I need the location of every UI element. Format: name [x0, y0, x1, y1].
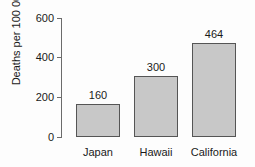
bar-california[interactable] — [192, 43, 236, 137]
y-tick-mark-0 — [57, 137, 61, 138]
y-tick-label-400: 400 — [14, 52, 54, 63]
plot-area: 160 Japan 300 Hawaii 464 California — [62, 0, 255, 167]
bar-hawaii[interactable] — [134, 76, 178, 137]
bar-japan[interactable] — [76, 104, 120, 137]
y-tick-label-200: 200 — [14, 92, 54, 103]
bar-value-california: 464 — [180, 29, 248, 40]
y-tick-label-600: 600 — [14, 13, 54, 24]
y-tick-label-0: 0 — [14, 132, 54, 143]
y-tick-mark-200 — [57, 97, 61, 98]
bar-chart-figure: Deaths per 100 000 600 400 200 0 160 Jap… — [0, 0, 255, 167]
bar-value-hawaii: 300 — [122, 62, 190, 73]
bar-value-japan: 160 — [64, 90, 132, 101]
category-label-california: California — [176, 146, 252, 158]
y-tick-mark-600 — [57, 18, 61, 19]
y-tick-mark-400 — [57, 57, 61, 58]
